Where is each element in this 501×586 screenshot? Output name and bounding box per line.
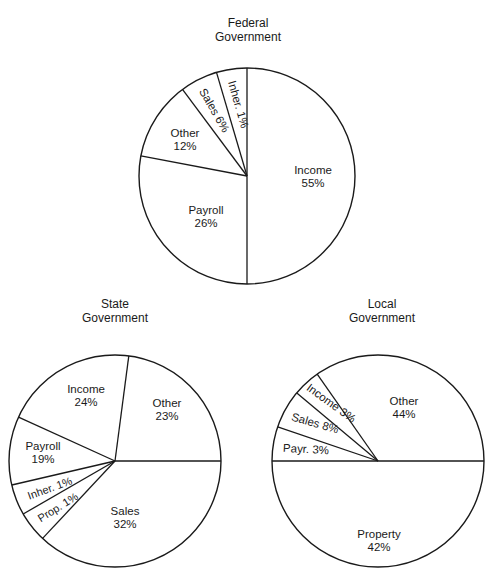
state-label-other: Other 23% <box>142 397 192 423</box>
state-other-name: Other <box>142 397 192 410</box>
state-payroll-pct: 19% <box>18 453 68 466</box>
federal-title-line1: Federal <box>168 16 328 30</box>
federal-label-payroll: Payroll 26% <box>176 204 236 230</box>
state-income-pct: 24% <box>58 396 114 409</box>
federal-payroll-name: Payroll <box>176 204 236 217</box>
local-property-name: Property <box>348 528 410 541</box>
federal-other-pct: 12% <box>162 140 208 153</box>
federal-label-income: Income 55% <box>283 164 343 190</box>
local-property-pct: 42% <box>348 541 410 554</box>
state-sales-name: Sales <box>100 505 150 518</box>
local-label-property: Property 42% <box>348 528 410 554</box>
local-title: Local Government <box>302 297 462 325</box>
local-title-line1: Local <box>302 297 462 311</box>
state-label-payroll: Payroll 19% <box>18 440 68 466</box>
federal-other-name: Other <box>162 127 208 140</box>
state-label-sales: Sales 32% <box>100 505 150 531</box>
state-title: State Government <box>35 297 195 325</box>
local-title-line2: Government <box>302 311 462 325</box>
state-label-income: Income 24% <box>58 383 114 409</box>
federal-payroll-pct: 26% <box>176 217 236 230</box>
state-income-name: Income <box>58 383 114 396</box>
local-other-pct: 44% <box>379 408 429 421</box>
federal-title-line2: Government <box>168 30 328 44</box>
state-sales-pct: 32% <box>100 518 150 531</box>
federal-title: Federal Government <box>168 16 328 44</box>
local-label-other: Other 44% <box>379 395 429 421</box>
state-title-line2: Government <box>35 311 195 325</box>
state-other-pct: 23% <box>142 410 192 423</box>
federal-income-name: Income <box>283 164 343 177</box>
local-other-name: Other <box>379 395 429 408</box>
state-payroll-name: Payroll <box>18 440 68 453</box>
federal-label-other: Other 12% <box>162 127 208 153</box>
state-title-line1: State <box>35 297 195 311</box>
federal-income-pct: 55% <box>283 177 343 190</box>
